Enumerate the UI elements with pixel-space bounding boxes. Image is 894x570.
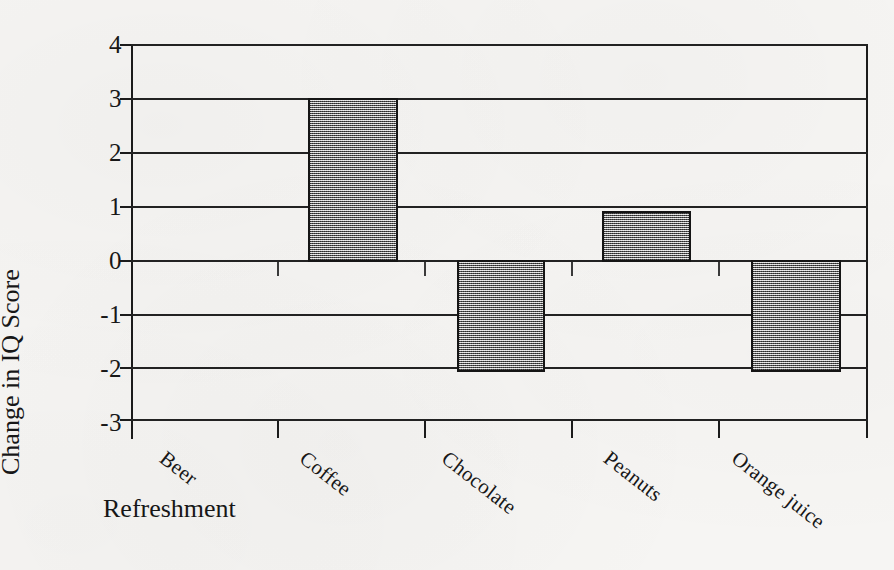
- zero-line-tick-3: [571, 262, 573, 276]
- x-tick-5: [866, 421, 868, 438]
- y-tick-4: [120, 44, 131, 46]
- zero-line-tick-2: [424, 262, 426, 276]
- y-tick-label-1: 1: [88, 194, 122, 219]
- zero-line-tick-4: [718, 262, 720, 276]
- gridline-2: [131, 152, 868, 154]
- y-tick-label-3: 3: [88, 86, 122, 111]
- x-category-label-orange-juice: Orange juice: [727, 446, 830, 534]
- gridline-1: [131, 206, 868, 208]
- x-tick-2: [424, 421, 426, 438]
- x-category-label-coffee: Coffee: [295, 446, 357, 502]
- y-tick-0: [120, 260, 131, 262]
- gridline-neg3: [131, 419, 868, 421]
- chart-page: Change in IQ Score 4 3 2 1 0 -1 -2 -3: [0, 0, 894, 570]
- gridline-4: [131, 44, 868, 46]
- y-axis-title: Change in IQ Score: [0, 125, 26, 455]
- y-axis-extension: [131, 421, 133, 439]
- y-axis-title-text: Change in IQ Score: [0, 145, 26, 475]
- x-category-label-chocolate: Chocolate: [437, 446, 522, 520]
- y-tick-label-4: 4: [88, 32, 122, 57]
- y-tick-1: [120, 206, 131, 208]
- y-tick-label-neg1: -1: [80, 302, 122, 327]
- x-tick-3: [571, 421, 573, 438]
- y-axis-line: [131, 44, 133, 421]
- x-tick-1: [277, 421, 279, 438]
- gridline-3: [131, 98, 868, 100]
- plot-right-border: [866, 44, 868, 421]
- bar-coffee[interactable]: [308, 98, 398, 262]
- y-tick-neg3: [120, 419, 131, 421]
- bar-orange-juice[interactable]: [751, 260, 841, 372]
- zero-line-tick-1: [277, 262, 279, 276]
- y-tick-label-2: 2: [88, 140, 122, 165]
- x-category-label-peanuts: Peanuts: [599, 446, 668, 507]
- bar-chocolate[interactable]: [457, 260, 545, 372]
- y-tick-3: [120, 98, 131, 100]
- x-axis-title: Refreshment: [103, 494, 236, 524]
- y-tick-label-neg3: -3: [80, 410, 122, 435]
- bar-peanuts[interactable]: [602, 211, 691, 262]
- plot-area: [131, 44, 868, 421]
- y-tick-label-neg2: -2: [80, 356, 122, 381]
- y-tick-label-0: 0: [88, 248, 122, 273]
- y-tick-neg2: [120, 367, 131, 369]
- x-tick-4: [718, 421, 720, 438]
- x-category-label-beer: Beer: [155, 446, 203, 491]
- y-tick-2: [120, 152, 131, 154]
- y-tick-neg1: [120, 314, 131, 316]
